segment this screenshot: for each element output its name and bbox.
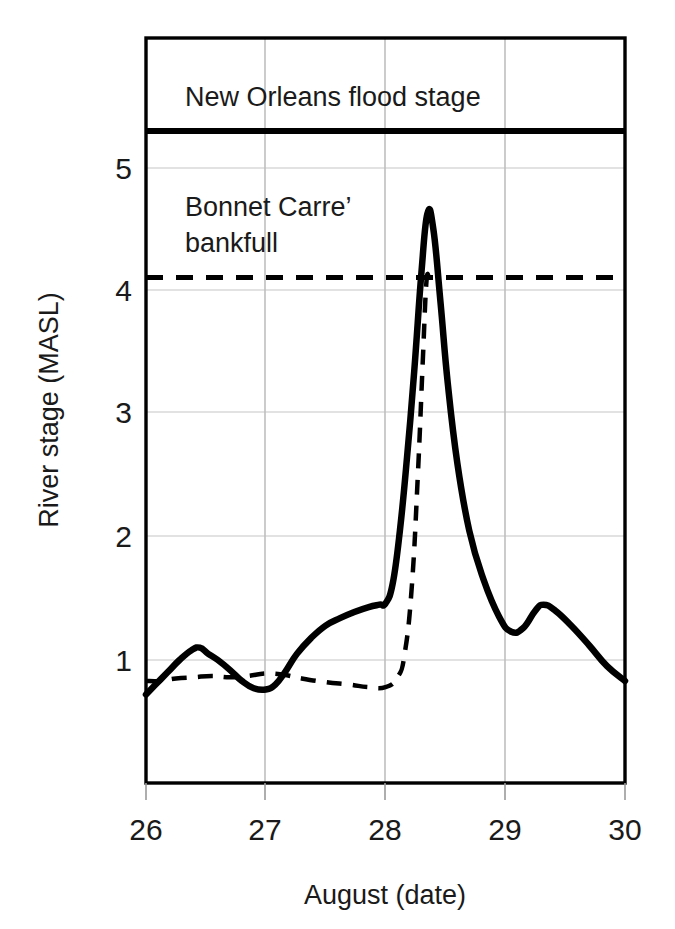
xtick-label-29: 29 <box>488 813 521 846</box>
xtick-label-28: 28 <box>368 813 401 846</box>
xtick-label-26: 26 <box>129 813 162 846</box>
ytick-label-4: 4 <box>115 274 132 307</box>
figure-container: 5 4 3 2 1 26 27 28 29 30 River stage (MA… <box>0 0 675 929</box>
annotation-bankfull-label-line2: bankfull <box>185 228 278 258</box>
x-axis-ticks <box>146 783 625 800</box>
ytick-label-3: 3 <box>115 396 132 429</box>
y-axis-title: River stage (MASL) <box>34 292 64 528</box>
figure-caption-partial <box>40 916 640 929</box>
river-stage-chart: 5 4 3 2 1 26 27 28 29 30 River stage (MA… <box>0 0 675 929</box>
annotation-bankfull-label-line1: Bonnet Carre’ <box>185 192 352 222</box>
annotation-flood-stage-label: New Orleans flood stage <box>185 82 481 112</box>
x-tick-labels: 26 27 28 29 30 <box>129 813 641 846</box>
y-tick-labels: 5 4 3 2 1 <box>115 152 132 677</box>
xtick-label-27: 27 <box>248 813 281 846</box>
xtick-label-30: 30 <box>608 813 641 846</box>
ytick-label-1: 1 <box>115 644 132 677</box>
x-axis-title: August (date) <box>304 880 466 910</box>
ytick-label-2: 2 <box>115 520 132 553</box>
ytick-label-5: 5 <box>115 152 132 185</box>
